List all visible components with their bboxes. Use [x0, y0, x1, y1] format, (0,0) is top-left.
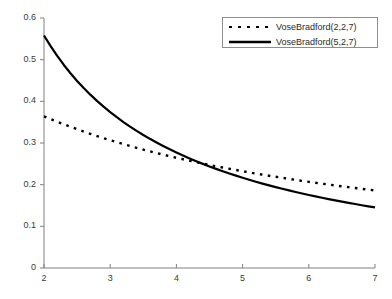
y-axis-tick-label: 0: [0, 262, 36, 272]
chart-container: 00.10.20.30.40.50.6 234567 VoseBradford(…: [0, 0, 392, 299]
data-series-group: [44, 35, 375, 207]
x-axis-tick-label: 2: [24, 273, 64, 283]
legend-label-solid: VoseBradford(5,2,7): [276, 37, 357, 47]
x-axis-ticks: [44, 264, 375, 268]
y-axis-ticks: [40, 18, 44, 268]
legend-entry-dashed: VoseBradford(2,2,7): [223, 19, 379, 34]
y-axis-tick-label: 0.2: [0, 179, 36, 189]
y-axis-tick-label: 0.5: [0, 54, 36, 64]
y-axis-tick-label: 0.1: [0, 220, 36, 230]
series-line-solid: [44, 35, 375, 207]
series-line-dashed: [44, 116, 375, 190]
legend-label-dashed: VoseBradford(2,2,7): [276, 22, 357, 32]
legend-entry-solid: VoseBradford(5,2,7): [223, 34, 379, 49]
legend-solid-line-icon: [228, 36, 272, 48]
legend-dashed-line-icon: [228, 21, 272, 33]
x-axis-tick-label: 5: [223, 273, 263, 283]
x-axis-tick-label: 7: [355, 273, 392, 283]
x-axis-tick-label: 4: [156, 273, 196, 283]
x-axis-tick-label: 6: [289, 273, 329, 283]
y-axis-tick-label: 0.3: [0, 137, 36, 147]
y-axis-tick-label: 0.4: [0, 95, 36, 105]
axis-lines: [44, 18, 375, 268]
x-axis-tick-label: 3: [90, 273, 130, 283]
chart-legend: VoseBradford(2,2,7) VoseBradford(5,2,7): [222, 17, 378, 48]
y-axis-tick-label: 0.6: [0, 12, 36, 22]
